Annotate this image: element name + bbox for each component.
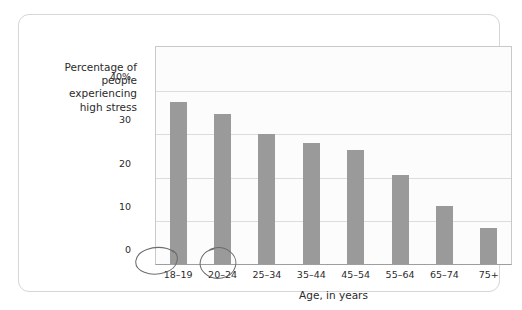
bar-series bbox=[156, 47, 511, 264]
xtick-20-24: 20–24 bbox=[203, 269, 243, 280]
x-axis-title: Age, in years bbox=[156, 289, 511, 301]
ytick-0: 0 bbox=[101, 244, 131, 255]
ytick-20: 20 bbox=[101, 158, 131, 169]
xtick-55-64: 55–64 bbox=[380, 269, 420, 280]
ytick-30: 30 bbox=[101, 114, 131, 125]
bar-18-19 bbox=[170, 102, 187, 264]
ytick-40: 40% bbox=[101, 71, 131, 82]
y-axis-title: Percentage of people experiencing high s… bbox=[29, 61, 137, 114]
xtick-18-19: 18–19 bbox=[158, 269, 198, 280]
xtick-75-plus: 75+ bbox=[469, 269, 509, 280]
chart-figure: Percentage of people experiencing high s… bbox=[18, 14, 500, 292]
bar-35-44 bbox=[303, 143, 320, 264]
xtick-25-34: 25–34 bbox=[247, 269, 287, 280]
bar-45-54 bbox=[347, 150, 364, 264]
bar-25-34 bbox=[258, 134, 275, 264]
x-axis-tick-labels: 18–19 20–24 25–34 35–44 45–54 55–64 65–7… bbox=[156, 269, 511, 280]
xtick-45-54: 45–54 bbox=[336, 269, 376, 280]
bar-20-24 bbox=[214, 114, 231, 264]
bar-65-74 bbox=[436, 206, 453, 264]
xtick-35-44: 35–44 bbox=[291, 269, 331, 280]
xtick-65-74: 65–74 bbox=[424, 269, 464, 280]
ytick-10: 10 bbox=[101, 201, 131, 212]
bar-55-64 bbox=[392, 175, 409, 264]
bar-75-plus bbox=[480, 228, 497, 264]
